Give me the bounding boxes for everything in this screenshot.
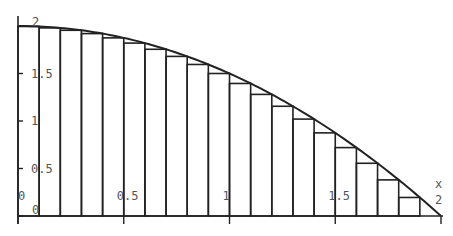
x-tick-label: 2: [435, 193, 442, 207]
riemann-rectangles: [18, 26, 420, 216]
riemann-rectangle: [60, 30, 81, 216]
x-tick-label: 0: [18, 189, 25, 203]
riemann-rectangle: [187, 64, 208, 216]
x-tick-label: 0.5: [117, 189, 139, 203]
riemann-rectangle: [293, 119, 314, 216]
riemann-rectangle: [335, 148, 356, 216]
y-tick-label: 2: [32, 15, 39, 29]
x-axis-label: x: [435, 177, 442, 191]
riemann-rectangle: [356, 163, 377, 216]
riemann-rectangle: [399, 197, 420, 216]
riemann-rectangle: [145, 49, 166, 216]
y-tick-label: 0.5: [31, 162, 53, 176]
riemann-rectangle: [272, 106, 293, 216]
y-tick-label: 0: [32, 203, 39, 217]
riemann-rectangle: [81, 34, 102, 216]
y-tick-label: 1.5: [31, 67, 53, 81]
riemann-rectangle: [251, 94, 272, 216]
riemann-rectangle: [166, 56, 187, 216]
y-tick-label: 1: [31, 114, 38, 128]
x-tick-label: 1: [223, 189, 230, 203]
riemann-sum-diagram: 00.511.5200.511.52x: [0, 0, 453, 236]
riemann-rectangle: [230, 83, 251, 216]
riemann-rectangle: [39, 28, 60, 216]
riemann-rectangle: [378, 180, 399, 216]
riemann-rectangle: [314, 133, 335, 216]
x-tick-label: 1.5: [328, 189, 350, 203]
